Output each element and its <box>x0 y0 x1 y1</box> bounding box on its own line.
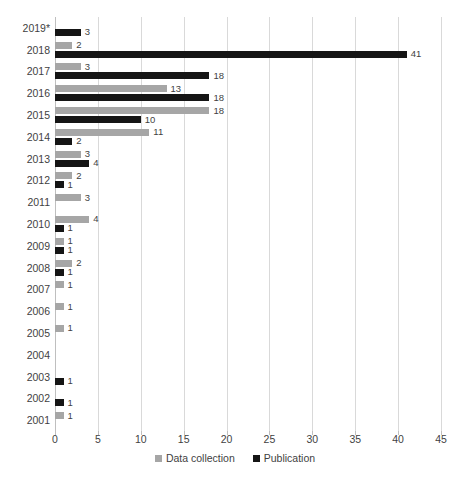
bar-slot: 18 <box>55 94 441 101</box>
y-axis-label-2018: 2018 <box>0 44 50 56</box>
bar-value-label: 18 <box>213 106 224 116</box>
bar-slot: 2 <box>55 260 441 267</box>
bar-value-label: 1 <box>68 180 73 190</box>
bar-slot: 1 <box>55 325 441 332</box>
y-axis-label-2017: 2017 <box>0 65 50 77</box>
bar-value-label: 3 <box>85 62 90 72</box>
bar-data-collection <box>55 107 209 114</box>
legend-item-publication[interactable]: Publication <box>253 452 315 464</box>
bar-group-2017: 318 <box>55 61 441 83</box>
y-axis-label-2014: 2014 <box>0 131 50 143</box>
bar-value-label: 3 <box>85 28 90 38</box>
bar-slot: 2 <box>55 138 441 145</box>
y-axis-label-2015: 2015 <box>0 109 50 121</box>
bar-slot: 1 <box>55 225 441 232</box>
x-tick-label-10: 10 <box>135 433 147 445</box>
bar-data-collection <box>55 238 64 245</box>
bar-slot: 2 <box>55 172 441 179</box>
bar-value-label: 1 <box>68 398 73 408</box>
y-axis-label-2001: 2001 <box>0 414 50 426</box>
bar-slot <box>55 334 441 341</box>
y-axis-label-2010: 2010 <box>0 218 50 230</box>
y-axis-label-2016: 2016 <box>0 87 50 99</box>
bar-slot <box>55 356 441 363</box>
legend-label: Publication <box>264 452 315 464</box>
y-axis-label-2005: 2005 <box>0 327 50 339</box>
bar-value-label: 1 <box>68 267 73 277</box>
bar-value-label: 1 <box>68 411 73 421</box>
bar-value-label: 2 <box>76 258 81 268</box>
bar-group-2004 <box>55 344 441 366</box>
bar-slot: 3 <box>55 194 441 201</box>
bar-value-label: 1 <box>68 246 73 256</box>
bar-slot <box>55 290 441 297</box>
bar-slot: 1 <box>55 378 441 385</box>
plot-area: 32413181318181011234213411121111111 <box>55 17 441 431</box>
bar-slot <box>55 347 441 354</box>
bar-group-2005: 1 <box>55 322 441 344</box>
bar-slot <box>55 369 441 376</box>
bar-data-collection <box>55 303 64 310</box>
bar-slot: 11 <box>55 129 441 136</box>
bar-group-2008: 21 <box>55 257 441 279</box>
bar-data-collection <box>55 42 72 49</box>
bar-publication <box>55 116 141 123</box>
x-tick-label-25: 25 <box>264 433 276 445</box>
bar-value-label: 18 <box>213 93 224 103</box>
bar-slot: 3 <box>55 29 441 36</box>
bar-value-label: 4 <box>93 158 98 168</box>
bar-group-2015: 1810 <box>55 104 441 126</box>
bar-slot: 13 <box>55 85 441 92</box>
x-tick-label-5: 5 <box>95 433 101 445</box>
bar-slot: 3 <box>55 151 441 158</box>
bar-group-2014: 112 <box>55 126 441 148</box>
bar-publication <box>55 399 64 406</box>
bar-slot: 3 <box>55 63 441 70</box>
bar-publication <box>55 51 407 58</box>
y-axis-label-2007: 2007 <box>0 283 50 295</box>
bar-group-2007: 1 <box>55 278 441 300</box>
x-tick-label-15: 15 <box>178 433 190 445</box>
bar-value-label: 1 <box>68 280 73 290</box>
x-tick-label-35: 35 <box>349 433 361 445</box>
legend-item-data-collection[interactable]: Data collection <box>155 452 235 464</box>
bar-rows: 32413181318181011234213411121111111 <box>55 17 441 431</box>
x-tick-label-45: 45 <box>435 433 447 445</box>
bar-publication <box>55 225 64 232</box>
bar-group-2011: 3 <box>55 191 441 213</box>
bar-publication <box>55 94 209 101</box>
x-tick-label-0: 0 <box>52 433 58 445</box>
x-axis-tick-labels: 051015202530354045 <box>55 433 441 449</box>
bar-group-2006: 1 <box>55 300 441 322</box>
bar-publication <box>55 181 64 188</box>
bar-publication <box>55 29 81 36</box>
bar-publication <box>55 160 89 167</box>
bar-data-collection <box>55 194 81 201</box>
bar-slot: 4 <box>55 216 441 223</box>
bar-value-label: 41 <box>411 49 422 59</box>
bar-value-label: 1 <box>68 324 73 334</box>
y-axis-label-2013: 2013 <box>0 153 50 165</box>
bar-slot <box>55 20 441 27</box>
bar-value-label: 2 <box>76 40 81 50</box>
chart-legend: Data collectionPublication <box>0 452 470 464</box>
y-axis-label-2009: 2009 <box>0 240 50 252</box>
bar-group-2002: 1 <box>55 387 441 409</box>
y-axis-label-2012: 2012 <box>0 174 50 186</box>
bar-data-collection <box>55 129 149 136</box>
bar-data-collection <box>55 412 64 419</box>
bar-value-label: 3 <box>85 149 90 159</box>
bar-group-2003: 1 <box>55 366 441 388</box>
bar-data-collection <box>55 325 64 332</box>
bar-publication <box>55 138 72 145</box>
bar-slot <box>55 312 441 319</box>
bar-group-2010: 41 <box>55 213 441 235</box>
bar-value-label: 18 <box>213 71 224 81</box>
bar-publication <box>55 247 64 254</box>
legend-swatch-icon <box>253 455 260 462</box>
bar-group-2013: 34 <box>55 148 441 170</box>
bar-publication <box>55 72 209 79</box>
y-axis-label-2003: 2003 <box>0 371 50 383</box>
bar-value-label: 10 <box>145 115 156 125</box>
bar-slot: 2 <box>55 42 441 49</box>
